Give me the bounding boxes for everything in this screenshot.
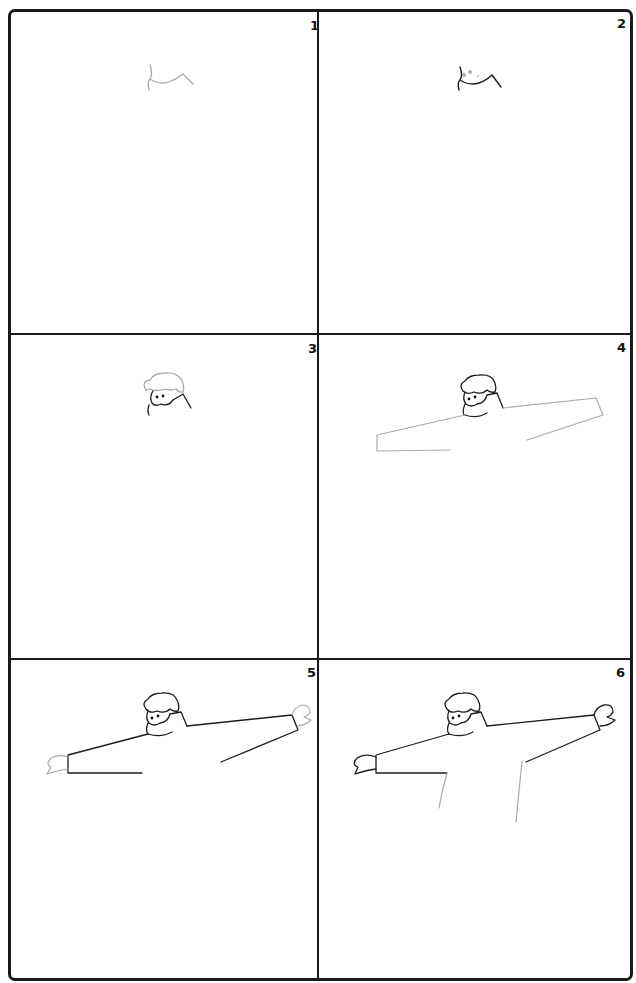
step-panel-2: 2 xyxy=(319,12,627,333)
person-with-mittens xyxy=(11,660,317,978)
person-with-body xyxy=(319,660,627,978)
step-panel-6: 6 xyxy=(319,660,627,978)
step-panel-1: 1 xyxy=(11,12,317,333)
step-panel-5: 5 xyxy=(11,660,317,978)
collar-sketch xyxy=(11,12,317,333)
step-panel-3: 3 xyxy=(11,335,317,658)
collar-with-face-marks xyxy=(319,12,627,333)
person-with-arms xyxy=(319,335,627,658)
step-panel-4: 4 xyxy=(319,335,627,658)
head-with-hair xyxy=(11,335,317,658)
